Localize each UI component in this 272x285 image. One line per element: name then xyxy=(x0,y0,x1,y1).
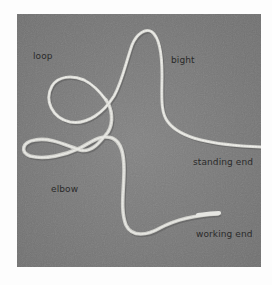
label-bight: bight xyxy=(171,55,195,65)
label-standing-end: standing end xyxy=(193,157,253,167)
label-loop: loop xyxy=(33,51,53,61)
figure: loop bight standing end elbow working en… xyxy=(0,0,272,285)
label-elbow: elbow xyxy=(51,184,78,194)
label-working-end: working end xyxy=(196,229,253,239)
